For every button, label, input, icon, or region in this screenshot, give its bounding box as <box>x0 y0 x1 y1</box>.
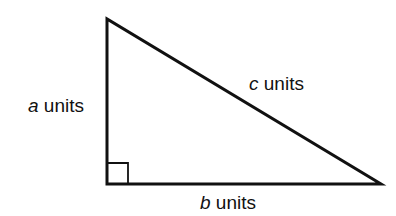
side-c-unit: units <box>264 73 304 94</box>
side-c-variable: c <box>249 73 259 94</box>
side-a-unit: units <box>44 95 84 116</box>
right-angle-marker <box>107 163 128 184</box>
side-b-unit: units <box>216 192 256 213</box>
side-c-label: c units <box>249 74 304 93</box>
side-a-variable: a <box>28 95 39 116</box>
side-a-label: a units <box>28 96 84 115</box>
side-b-variable: b <box>200 192 211 213</box>
triangle-outline <box>107 19 381 184</box>
side-b-label: b units <box>200 193 256 212</box>
